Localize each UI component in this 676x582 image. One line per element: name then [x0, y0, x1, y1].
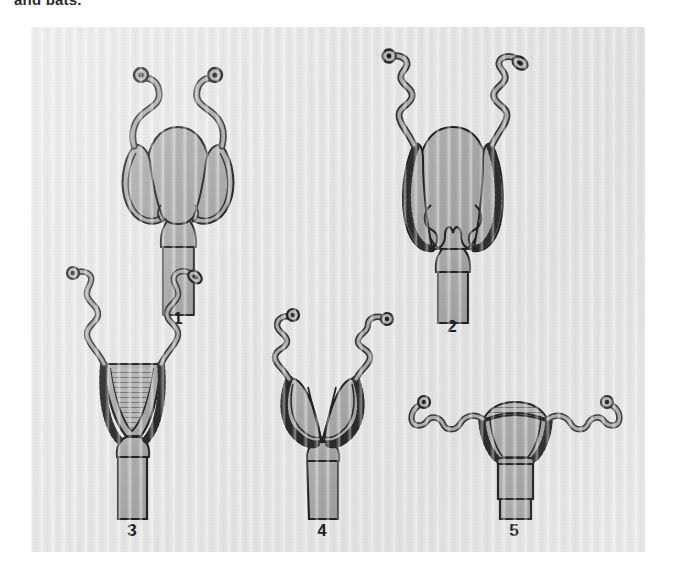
figure-5-simplex-uterus: 5	[412, 396, 620, 540]
figure-4-bicornuate-deep-cleft: 4	[275, 309, 393, 540]
fig5-cervix	[496, 458, 535, 464]
fig3-vagina	[118, 457, 147, 519]
figure-3-number: 3	[127, 521, 136, 540]
fig5-vagina	[500, 497, 531, 519]
figure-4-number: 4	[317, 521, 327, 540]
uterus-types-diagram: 1	[31, 27, 645, 552]
figure-2-bicornuate-uterus: 2	[383, 50, 530, 337]
fig2-vagina	[438, 272, 468, 323]
fig4-right-oviduct	[356, 317, 383, 379]
figure-panel: 1	[31, 27, 645, 552]
cutoff-caption-text: and bats.	[14, 0, 82, 8]
figure-2-number: 2	[447, 317, 456, 336]
figure-5-number: 5	[509, 521, 518, 540]
fig2-cervix	[436, 247, 470, 272]
fig4-vagina	[307, 461, 338, 519]
